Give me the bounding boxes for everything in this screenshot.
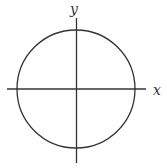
x-axis-label: x <box>153 82 161 98</box>
circle-diagram: y x <box>0 0 167 168</box>
y-axis-label: y <box>69 1 79 17</box>
